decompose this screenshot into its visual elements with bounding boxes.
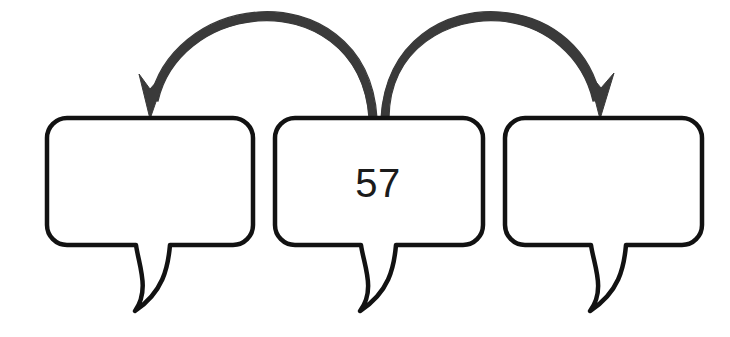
- arrow-middle-to-left: [139, 12, 377, 119]
- arrow-left-shaft: [150, 12, 377, 118]
- middle-bubble-outline: [275, 118, 483, 311]
- speech-bubble-diagram: 57: [0, 0, 730, 337]
- left-speech-bubble[interactable]: [47, 118, 253, 311]
- right-speech-bubble[interactable]: [505, 118, 702, 311]
- arrow-middle-to-right: [381, 12, 614, 119]
- right-bubble-outline: [505, 118, 702, 311]
- middle-bubble-value: 57: [355, 161, 401, 205]
- arrow-left-head: [139, 70, 167, 119]
- arrow-right-shaft: [381, 12, 601, 118]
- middle-speech-bubble[interactable]: 57: [275, 118, 483, 311]
- diagram-canvas: 57: [0, 0, 730, 337]
- left-bubble-outline: [47, 118, 253, 311]
